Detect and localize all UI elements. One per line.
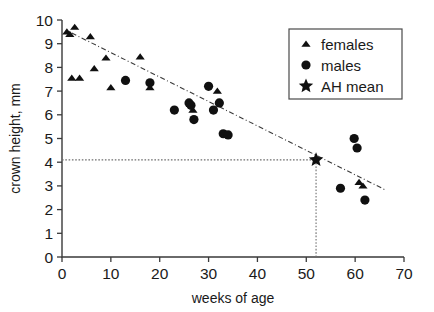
- x-tick-label-20: 20: [151, 265, 169, 282]
- data-point-females: [86, 33, 95, 39]
- legend-label-males: males: [321, 57, 361, 74]
- y-tick-label-9: 9: [44, 35, 53, 52]
- data-point-females: [90, 65, 99, 71]
- data-point-females: [101, 54, 110, 60]
- data-point-females: [106, 84, 115, 90]
- data-point-females: [75, 75, 84, 81]
- y-tick-label-10: 10: [36, 12, 54, 29]
- data-point-females: [213, 88, 222, 94]
- x-tick-label-0: 0: [58, 265, 67, 282]
- data-point-males: [336, 184, 345, 193]
- data-point-males: [145, 78, 154, 87]
- data-point-females: [67, 75, 76, 81]
- data-point-males: [204, 82, 213, 91]
- data-point-males: [350, 134, 359, 143]
- data-point-males: [352, 143, 361, 152]
- data-point-males: [209, 105, 218, 114]
- y-tick-label-6: 6: [44, 106, 53, 123]
- x-tick-label-40: 40: [249, 265, 267, 282]
- y-tick-label-1: 1: [44, 225, 53, 242]
- x-tick-label-60: 60: [347, 265, 365, 282]
- data-point-males: [170, 105, 179, 114]
- data-point-females: [136, 53, 145, 59]
- x-tick-label-30: 30: [200, 265, 218, 282]
- legend: femalesmalesAH mean: [289, 29, 402, 99]
- data-point-males: [215, 98, 224, 107]
- x-axis-title: weeks of age: [191, 290, 275, 306]
- y-axis-title: crown height, mm: [7, 83, 23, 193]
- x-tick-label-50: 50: [298, 265, 316, 282]
- legend-label-females: females: [321, 36, 374, 53]
- data-point-males: [360, 196, 369, 205]
- legend-label-AH-mean: AH mean: [321, 78, 384, 95]
- scatter-plot: 012345678910010203040506070 weeks of age…: [0, 0, 434, 312]
- chart-container: 012345678910010203040506070 weeks of age…: [0, 0, 434, 312]
- legend-marker-males: [301, 60, 310, 69]
- y-tick-label-7: 7: [44, 83, 53, 100]
- y-tick-label-0: 0: [44, 249, 53, 266]
- data-point-males: [121, 76, 130, 85]
- data-point-males: [224, 130, 233, 139]
- y-tick-label-5: 5: [44, 130, 53, 147]
- data-point-males: [186, 101, 195, 110]
- y-tick-label-2: 2: [44, 201, 53, 218]
- x-tick-label-70: 70: [395, 265, 413, 282]
- x-tick-label-10: 10: [102, 265, 120, 282]
- y-tick-label-4: 4: [44, 154, 53, 171]
- reference-lines: [62, 160, 316, 257]
- data-point-females: [70, 24, 79, 30]
- y-tick-label-3: 3: [44, 177, 53, 194]
- data-point-males: [189, 115, 198, 124]
- y-tick-label-8: 8: [44, 59, 53, 76]
